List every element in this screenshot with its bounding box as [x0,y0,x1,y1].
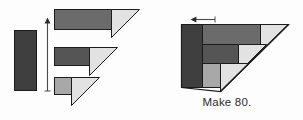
piece-1-triangle [112,10,140,38]
assembled-piece-1-rectangle [203,25,261,45]
tall-dark-bar [15,31,37,91]
make-80-caption: Make 80. [151,96,303,108]
piece-2-triangle [90,48,118,76]
height-dimension-arrow-icon [45,18,51,92]
piece-3-triangle [72,78,100,106]
assembled-piece-2-rectangle [203,45,239,64]
piece-3 [55,78,100,106]
assembled-tall-dark-bar [182,25,203,88]
piece-3-rectangle [55,78,72,95]
piece-1 [55,10,140,38]
figure-root: Make 80. [0,0,303,120]
left-panel-pieces [15,10,140,106]
piece-2 [55,48,118,76]
right-panel-assembled [182,17,289,92]
piece-2-rectangle [55,48,90,66]
assembled-piece-3-rectangle [203,64,221,88]
width-dimension-arrow-icon [191,17,216,23]
piece-1-rectangle [55,10,112,30]
